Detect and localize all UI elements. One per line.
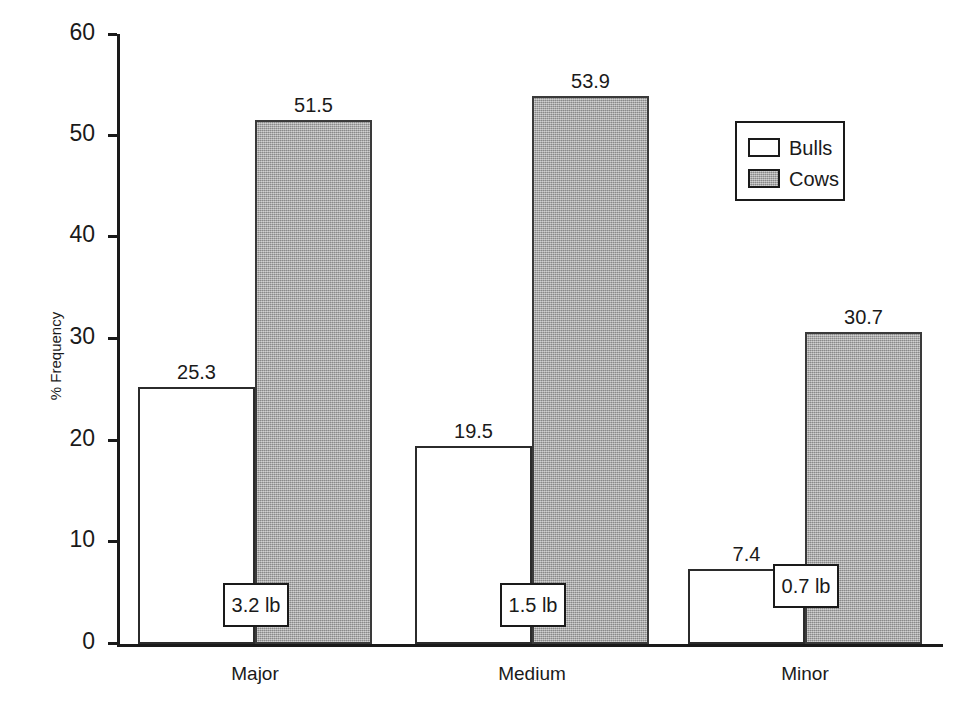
bar-chart-figure: % Frequency 0 10 20 30 40 50 60 25.3 xyxy=(0,0,968,712)
weight-annotation-minor-text: 0.7 lb xyxy=(782,576,831,596)
weight-annotation-medium: 1.5 lb xyxy=(500,583,566,627)
x-category-label-minor: Minor xyxy=(781,664,829,683)
y-tick-50: 50 xyxy=(108,134,117,137)
weight-annotation-minor: 0.7 lb xyxy=(773,564,839,608)
legend-swatch-cows-icon xyxy=(748,169,780,188)
y-tick-30: 30 xyxy=(108,337,117,340)
legend-item-cows[interactable]: Cows xyxy=(748,163,843,194)
y-tick-0: 0 xyxy=(108,642,117,645)
weight-annotation-medium-text: 1.5 lb xyxy=(509,595,558,615)
y-tick-60: 60 xyxy=(108,33,117,36)
y-tick-label-10: 10 xyxy=(69,528,95,551)
bar-value-cows-minor: 30.7 xyxy=(844,307,883,327)
x-category-label-major: Major xyxy=(231,664,279,683)
weight-annotation-major-text: 3.2 lb xyxy=(232,595,281,615)
y-axis-line xyxy=(117,34,120,644)
y-tick-label-50: 50 xyxy=(69,122,95,145)
legend-label-bulls: Bulls xyxy=(789,138,832,158)
bar-value-cows-medium: 53.9 xyxy=(571,71,610,91)
bar-value-bulls-medium: 19.5 xyxy=(454,421,493,441)
legend-label-cows: Cows xyxy=(789,169,839,189)
y-axis-label: % Frequency xyxy=(47,312,64,400)
bar-cows-major[interactable]: 51.5 xyxy=(255,120,372,644)
legend: Bulls Cows xyxy=(735,121,845,201)
weight-annotation-major: 3.2 lb xyxy=(223,583,289,627)
y-tick-label-0: 0 xyxy=(82,630,95,653)
bar-cows-medium[interactable]: 53.9 xyxy=(532,96,649,644)
y-tick-label-20: 20 xyxy=(69,427,95,450)
y-tick-10: 10 xyxy=(108,540,117,543)
legend-item-bulls[interactable]: Bulls xyxy=(748,132,843,163)
y-tick-label-30: 30 xyxy=(69,325,95,348)
y-tick-20: 20 xyxy=(108,439,117,442)
bar-value-cows-major: 51.5 xyxy=(294,95,333,115)
bar-value-bulls-major: 25.3 xyxy=(177,362,216,382)
legend-swatch-bulls-icon xyxy=(748,138,780,157)
y-tick-label-60: 60 xyxy=(69,21,95,44)
bar-value-bulls-minor: 7.4 xyxy=(733,544,761,564)
y-tick-label-40: 40 xyxy=(69,223,95,246)
x-category-label-medium: Medium xyxy=(498,664,566,683)
y-tick-40: 40 xyxy=(108,235,117,238)
x-axis-line xyxy=(117,644,943,647)
